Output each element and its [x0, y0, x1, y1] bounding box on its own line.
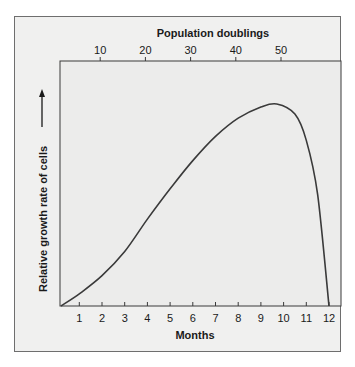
x-tick-label: 12	[323, 312, 335, 324]
top-tick-label: 30	[184, 44, 196, 56]
up-arrow-icon	[39, 89, 45, 127]
y-axis-title: Relative growth rate of cells	[37, 146, 49, 292]
x-tick-label: 6	[190, 312, 196, 324]
top-tick-label: 10	[94, 44, 106, 56]
top-tick-label: 20	[139, 44, 151, 56]
bottom-axis-title: Months	[175, 329, 214, 341]
top-tick-label: 40	[230, 44, 242, 56]
x-tick-label: 10	[277, 312, 289, 324]
x-tick-label: 9	[258, 312, 264, 324]
x-tick-label: 8	[235, 312, 241, 324]
x-tick-label: 2	[99, 312, 105, 324]
top-tick-label: 50	[275, 44, 287, 56]
x-tick-label: 3	[122, 312, 128, 324]
x-tick-label: 4	[144, 312, 150, 324]
x-tick-label: 7	[212, 312, 218, 324]
top-axis-title: Population doublings	[157, 27, 269, 39]
x-tick-label: 5	[167, 312, 173, 324]
top-axis-ticks: 1020304050	[94, 44, 287, 61]
x-tick-label: 1	[76, 312, 82, 324]
growth-chart: 1020304050 123456789101112 Population do…	[0, 0, 355, 367]
x-tick-label: 11	[301, 312, 312, 324]
plot-area	[60, 61, 341, 306]
